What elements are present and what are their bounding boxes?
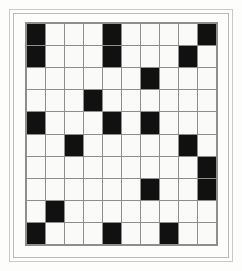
grid-cell-empty[interactable]: [46, 90, 64, 111]
grid-cell-empty[interactable]: [160, 179, 178, 200]
grid-cell-empty[interactable]: [84, 223, 102, 244]
grid-cell-filled[interactable]: [198, 157, 216, 178]
grid-cell-empty[interactable]: [122, 90, 140, 111]
grid-cell-filled[interactable]: [179, 46, 197, 67]
grid-cell-filled[interactable]: [46, 201, 64, 222]
grid-cell-empty[interactable]: [141, 201, 159, 222]
grid-cell-empty[interactable]: [65, 112, 83, 133]
grid-cell-empty[interactable]: [46, 112, 64, 133]
grid-cell-empty[interactable]: [160, 135, 178, 156]
grid-cell-filled[interactable]: [103, 46, 121, 67]
grid-cell-empty[interactable]: [122, 112, 140, 133]
grid-cell-empty[interactable]: [160, 90, 178, 111]
grid-cell-empty[interactable]: [46, 223, 64, 244]
grid-cell-empty[interactable]: [103, 90, 121, 111]
grid-cell-empty[interactable]: [141, 223, 159, 244]
grid-cell-filled[interactable]: [27, 24, 45, 45]
grid-cell-empty[interactable]: [122, 201, 140, 222]
grid-cell-empty[interactable]: [103, 68, 121, 89]
grid-cell-empty[interactable]: [46, 179, 64, 200]
grid-cell-empty[interactable]: [198, 46, 216, 67]
grid-cell-empty[interactable]: [103, 157, 121, 178]
grid-cell-empty[interactable]: [46, 46, 64, 67]
grid-cell-empty[interactable]: [160, 201, 178, 222]
grid-cell-filled[interactable]: [27, 112, 45, 133]
grid-cell-filled[interactable]: [141, 112, 159, 133]
grid-cell-empty[interactable]: [160, 157, 178, 178]
grid-cell-empty[interactable]: [27, 157, 45, 178]
grid-cell-empty[interactable]: [160, 68, 178, 89]
grid-cell-empty[interactable]: [179, 201, 197, 222]
grid-cell-filled[interactable]: [198, 24, 216, 45]
puzzle-grid[interactable]: [25, 22, 218, 246]
grid-cell-filled[interactable]: [160, 223, 178, 244]
grid-cell-empty[interactable]: [122, 179, 140, 200]
grid-cell-empty[interactable]: [179, 179, 197, 200]
grid-cell-filled[interactable]: [84, 90, 102, 111]
grid-cell-empty[interactable]: [179, 24, 197, 45]
grid-cell-empty[interactable]: [141, 135, 159, 156]
grid-cell-empty[interactable]: [141, 24, 159, 45]
grid-cell-empty[interactable]: [84, 46, 102, 67]
grid-cell-empty[interactable]: [179, 112, 197, 133]
grid-cell-empty[interactable]: [160, 24, 178, 45]
grid-cell-empty[interactable]: [198, 90, 216, 111]
grid-cell-filled[interactable]: [103, 24, 121, 45]
grid-cell-empty[interactable]: [198, 135, 216, 156]
grid-cell-empty[interactable]: [65, 24, 83, 45]
grid-cell-empty[interactable]: [46, 68, 64, 89]
grid-cell-filled[interactable]: [141, 68, 159, 89]
grid-cell-empty[interactable]: [84, 157, 102, 178]
grid-cell-empty[interactable]: [122, 24, 140, 45]
grid-cell-empty[interactable]: [27, 68, 45, 89]
grid-cell-filled[interactable]: [103, 112, 121, 133]
grid-cell-filled[interactable]: [198, 179, 216, 200]
grid-cell-empty[interactable]: [160, 46, 178, 67]
grid-cell-empty[interactable]: [179, 68, 197, 89]
grid-cell-empty[interactable]: [160, 112, 178, 133]
grid-cell-empty[interactable]: [122, 68, 140, 89]
grid-cell-empty[interactable]: [65, 223, 83, 244]
grid-cell-empty[interactable]: [122, 46, 140, 67]
grid-cell-empty[interactable]: [84, 179, 102, 200]
grid-cell-filled[interactable]: [141, 179, 159, 200]
grid-cell-empty[interactable]: [103, 179, 121, 200]
grid-cell-empty[interactable]: [103, 135, 121, 156]
grid-cell-empty[interactable]: [122, 135, 140, 156]
grid-cell-empty[interactable]: [122, 223, 140, 244]
grid-cell-empty[interactable]: [141, 157, 159, 178]
grid-cell-empty[interactable]: [65, 201, 83, 222]
grid-cell-empty[interactable]: [198, 68, 216, 89]
grid-cell-filled[interactable]: [103, 223, 121, 244]
grid-cell-filled[interactable]: [179, 135, 197, 156]
grid-cell-empty[interactable]: [27, 135, 45, 156]
grid-cell-filled[interactable]: [27, 46, 45, 67]
grid-cell-empty[interactable]: [65, 68, 83, 89]
grid-cell-empty[interactable]: [103, 201, 121, 222]
grid-cell-empty[interactable]: [46, 24, 64, 45]
grid-cell-empty[interactable]: [198, 112, 216, 133]
grid-cell-empty[interactable]: [27, 90, 45, 111]
grid-cell-empty[interactable]: [65, 90, 83, 111]
grid-cell-empty[interactable]: [141, 46, 159, 67]
grid-cell-empty[interactable]: [141, 90, 159, 111]
grid-cell-empty[interactable]: [84, 201, 102, 222]
grid-cell-empty[interactable]: [65, 46, 83, 67]
grid-cell-empty[interactable]: [179, 90, 197, 111]
grid-cell-filled[interactable]: [65, 135, 83, 156]
grid-cell-empty[interactable]: [46, 157, 64, 178]
grid-cell-empty[interactable]: [84, 68, 102, 89]
grid-cell-empty[interactable]: [84, 24, 102, 45]
grid-cell-empty[interactable]: [122, 157, 140, 178]
grid-cell-empty[interactable]: [84, 112, 102, 133]
grid-cell-empty[interactable]: [65, 179, 83, 200]
grid-cell-empty[interactable]: [46, 135, 64, 156]
grid-cell-empty[interactable]: [84, 135, 102, 156]
grid-cell-empty[interactable]: [179, 157, 197, 178]
grid-cell-empty[interactable]: [179, 223, 197, 244]
grid-cell-empty[interactable]: [65, 157, 83, 178]
grid-cell-empty[interactable]: [27, 201, 45, 222]
grid-cell-empty[interactable]: [27, 179, 45, 200]
grid-cell-filled[interactable]: [27, 223, 45, 244]
grid-cell-empty[interactable]: [198, 223, 216, 244]
